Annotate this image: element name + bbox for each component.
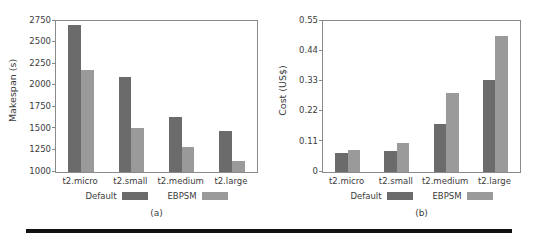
x-category-label: t2.large [478, 176, 511, 186]
x-category-label: t2.large [214, 176, 247, 186]
bottom-horizontal-rule [26, 229, 512, 233]
x-category-label: t2.medium [157, 176, 203, 186]
x-category-label: t2.small [379, 176, 413, 186]
bar-ebpsm-t2-large [232, 161, 245, 172]
bar-default-t2-medium [434, 124, 447, 172]
bar-default-t2-large [219, 131, 232, 172]
bar-group [434, 21, 459, 172]
bar-ebpsm-t2-large [495, 36, 508, 172]
y-axis-ticks-b: 00.110.220.330.440.55 [272, 20, 322, 173]
bar-default-t2-micro [68, 25, 81, 172]
chart-panel-a: Makespan (s) 100012501500175020002250250… [0, 0, 269, 240]
figure-container: Makespan (s) 100012501500175020002250250… [0, 0, 538, 240]
legend-swatch-ebpsm-b [467, 192, 493, 200]
bar-ebpsm-t2-medium [182, 147, 195, 172]
bar-group [483, 21, 508, 172]
bar-group-container-a [56, 21, 257, 172]
y-axis-ticks-a: 10001250150017502000225025002750 [5, 20, 55, 173]
legend-swatch-default-b [387, 192, 413, 200]
bar-default-t2-micro [335, 153, 348, 172]
bar-default-t2-small [119, 77, 132, 172]
legend-label-default-b: Default [350, 191, 381, 201]
bar-default-t2-medium [169, 117, 182, 172]
plot-area-b [322, 20, 521, 173]
x-axis-categories-b: t2.microt2.smallt2.mediumt2.large [322, 176, 521, 188]
bar-default-t2-large [483, 80, 496, 172]
legend-label-ebpsm-a: EBPSM [168, 191, 197, 201]
legend-item-ebpsm-b: EBPSM [433, 191, 493, 201]
legend-item-default-a: Default [85, 191, 147, 201]
legend-swatch-default-a [122, 192, 148, 200]
bar-ebpsm-t2-micro [348, 150, 361, 172]
subcaption-b: (b) [322, 208, 521, 218]
bar-group [68, 21, 94, 172]
bar-group [169, 21, 195, 172]
legend-b: Default EBPSM [322, 190, 521, 202]
x-category-label: t2.micro [62, 176, 97, 186]
legend-swatch-ebpsm-a [202, 192, 228, 200]
subcaption-a: (a) [55, 208, 258, 218]
bar-group [335, 21, 360, 172]
bar-group [119, 21, 145, 172]
x-axis-categories-a: t2.microt2.smallt2.mediumt2.large [55, 176, 258, 188]
legend-label-default-a: Default [85, 191, 116, 201]
legend-item-ebpsm-a: EBPSM [168, 191, 228, 201]
plot-area-a [55, 20, 258, 173]
bar-default-t2-small [384, 151, 397, 172]
legend-a: Default EBPSM [55, 190, 258, 202]
legend-item-default-b: Default [350, 191, 412, 201]
x-category-label: t2.micro [329, 176, 364, 186]
bar-ebpsm-t2-small [397, 143, 410, 172]
bar-group-container-b [323, 21, 520, 172]
bar-group [384, 21, 409, 172]
x-category-label: t2.medium [422, 176, 468, 186]
bar-group [219, 21, 245, 172]
bar-ebpsm-t2-medium [446, 93, 459, 172]
legend-label-ebpsm-b: EBPSM [433, 191, 462, 201]
bar-ebpsm-t2-micro [81, 70, 94, 172]
x-category-label: t2.small [113, 176, 147, 186]
bar-ebpsm-t2-small [131, 128, 144, 172]
